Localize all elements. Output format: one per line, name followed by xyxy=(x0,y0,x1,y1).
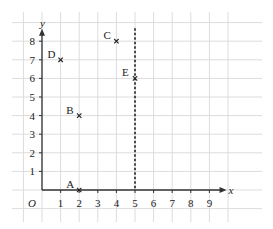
y-axis-label: y xyxy=(39,17,45,29)
y-tick-label: 6 xyxy=(30,72,36,84)
point-label: E xyxy=(122,66,129,78)
x-tick-label: 7 xyxy=(169,197,175,209)
y-axis-arrow-icon xyxy=(39,29,45,36)
y-tick-label: 2 xyxy=(30,147,36,159)
x-tick-label: 4 xyxy=(114,197,120,209)
y-tick-label: 8 xyxy=(30,35,36,47)
y-tick-label: 4 xyxy=(30,110,36,122)
origin-label: O xyxy=(28,197,36,209)
x-axis-label: x xyxy=(228,184,234,196)
x-tick-label: 2 xyxy=(76,197,82,209)
tick-labels: 12345678912345678O xyxy=(28,35,213,209)
x-axis-arrow-icon xyxy=(220,187,227,193)
x-tick-label: 3 xyxy=(95,197,101,209)
point-label: B xyxy=(66,104,73,116)
point-label: D xyxy=(48,48,56,60)
coordinate-plane: xy 12345678912345678O ABCDE xyxy=(0,0,273,229)
x-tick-label: 1 xyxy=(58,197,64,209)
x-tick-label: 9 xyxy=(207,197,213,209)
y-tick-label: 7 xyxy=(30,54,36,66)
x-tick-label: 6 xyxy=(151,197,157,209)
x-tick-label: 8 xyxy=(188,197,194,209)
point-label: C xyxy=(103,29,110,41)
point-label: A xyxy=(66,178,74,190)
y-tick-label: 3 xyxy=(30,128,36,140)
y-tick-label: 1 xyxy=(30,165,36,177)
x-tick-label: 5 xyxy=(132,197,138,209)
y-tick-label: 5 xyxy=(30,91,36,103)
